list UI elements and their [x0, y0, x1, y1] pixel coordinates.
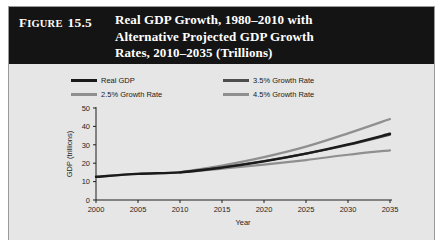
figure-title-line-1: Real GDP Growth, 1980–2010 with: [115, 12, 428, 29]
y-tick-label: 40: [82, 122, 90, 131]
y-tick-label: 0: [86, 196, 90, 205]
figure-title: Real GDP Growth, 1980–2010 with Alternat…: [115, 12, 428, 62]
y-tick-label: 30: [82, 141, 90, 150]
x-axis-ticks: 20002005201020152020202520302035: [88, 200, 399, 214]
x-tick-label: 2020: [256, 205, 273, 214]
chart-svg: 01020304050 2000200520102015202020252030…: [9, 64, 436, 240]
y-tick-label: 50: [82, 104, 90, 113]
y-axis-ticks: 01020304050: [82, 104, 96, 205]
y-tick-label: 10: [82, 177, 90, 186]
y-tick-label: 20: [82, 159, 90, 168]
figure-word: FIGURE: [19, 18, 63, 29]
x-axis-title: Year: [235, 218, 251, 227]
x-tick-label: 2035: [382, 205, 399, 214]
figure-number-label: FIGURE15.5: [19, 12, 115, 31]
x-tick-label: 2015: [214, 205, 231, 214]
chart-plot-area: Real GDP 3.5% Growth Rate 2.5% Growth Ra…: [9, 64, 434, 240]
x-tick-label: 2030: [340, 205, 357, 214]
x-tick-label: 2005: [130, 205, 147, 214]
figure-number: 15.5: [68, 15, 92, 30]
y-axis-title: GDP (trillions): [65, 130, 74, 177]
figure-title-line-2: Alternative Projected GDP Growth: [115, 29, 428, 46]
x-tick-label: 2025: [298, 205, 315, 214]
figure-card: FIGURE15.5 Real GDP Growth, 1980–2010 wi…: [8, 6, 435, 240]
chart-series-group: [96, 119, 390, 177]
x-tick-label: 2010: [172, 205, 189, 214]
x-tick-label: 2000: [88, 205, 105, 214]
figure-header: FIGURE15.5 Real GDP Growth, 1980–2010 wi…: [9, 7, 434, 64]
chart-line-4-5-growth-rate: [180, 119, 390, 172]
figure-title-line-3: Rates, 2010–2035 (Trillions): [115, 45, 428, 62]
